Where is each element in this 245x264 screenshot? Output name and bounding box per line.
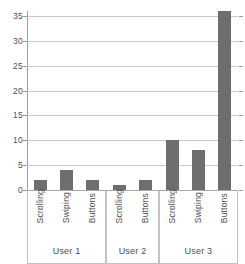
gridline-5 — [27, 165, 238, 166]
gridline-20 — [27, 91, 238, 92]
tick-mark-right-15 — [239, 115, 243, 116]
tick-mark-right-35 — [239, 16, 243, 17]
category-label: Buttons — [87, 193, 98, 223]
tick-mark-left-15 — [23, 115, 27, 116]
gridline-10 — [27, 140, 238, 141]
y-tick-label-30: 30 — [1, 36, 23, 46]
tick-mark-left-10 — [23, 140, 27, 141]
y-tick-label-5: 5 — [1, 160, 23, 170]
group-label-user-2: User 2 — [106, 246, 159, 256]
tick-mark-left-5 — [23, 165, 27, 166]
tick-mark-right-10 — [239, 140, 243, 141]
category-label: Buttons — [140, 193, 151, 223]
gridline-25 — [27, 66, 238, 67]
group-label-user-1: User 1 — [27, 246, 106, 256]
category-axis: User 1ScrollingSwipingButtonsUser 2Scrol… — [27, 191, 238, 264]
bar — [139, 180, 152, 190]
y-tick-label-0: 0 — [1, 185, 23, 195]
category-label: Scrolling — [35, 189, 46, 223]
tick-mark-right-5 — [239, 165, 243, 166]
bar-chart: 05101520253035 User 1ScrollingSwipingBut… — [0, 0, 245, 264]
tick-mark-right-0 — [239, 190, 243, 191]
y-axis-labels: 05101520253035 — [0, 11, 23, 190]
y-tick-label-15: 15 — [1, 110, 23, 120]
tick-mark-left-35 — [23, 16, 27, 17]
gridline-35 — [27, 16, 238, 17]
bar — [86, 180, 99, 190]
bar — [60, 170, 73, 190]
tick-mark-right-20 — [239, 91, 243, 92]
bar — [192, 150, 205, 190]
bar — [218, 11, 231, 190]
y-tick-label-35: 35 — [1, 11, 23, 21]
plot-area — [27, 11, 238, 190]
category-label: Buttons — [219, 193, 230, 223]
tick-mark-right-25 — [239, 66, 243, 67]
category-label: Scrolling — [167, 189, 178, 223]
tick-mark-right-30 — [239, 41, 243, 42]
category-label: Scrolling — [114, 189, 125, 223]
category-label: Swiping — [193, 192, 204, 223]
category-label: Swiping — [61, 192, 72, 223]
gridline-15 — [27, 115, 238, 116]
y-tick-label-25: 25 — [1, 61, 23, 71]
group-label-user-3: User 3 — [159, 246, 238, 256]
tick-mark-left-30 — [23, 41, 27, 42]
tick-mark-left-25 — [23, 66, 27, 67]
gridline-30 — [27, 41, 238, 42]
y-tick-label-10: 10 — [1, 135, 23, 145]
bar — [166, 140, 179, 190]
tick-mark-left-20 — [23, 91, 27, 92]
y-tick-label-20: 20 — [1, 86, 23, 96]
